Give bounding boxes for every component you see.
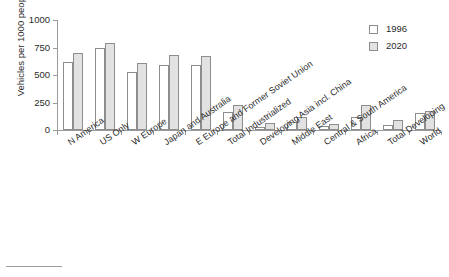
bar-2020-us-only	[105, 43, 115, 130]
legend-swatch-icon	[369, 42, 378, 51]
x-tick-mark	[57, 131, 58, 135]
legend-label: 2020	[386, 41, 407, 51]
bars-layer	[0, 0, 449, 131]
legend-item-1996[interactable]: 1996	[369, 22, 407, 36]
bar-2020-japan-and-australia	[169, 55, 179, 130]
legend-swatch-icon	[369, 25, 378, 34]
bar-2020-n-america	[73, 53, 83, 130]
legend-label: 1996	[386, 24, 407, 34]
bottom-divider	[6, 266, 62, 267]
bar-1996-w-europe	[127, 72, 137, 130]
bar-chart: Vehicles per 1000 people 02505007501000 …	[0, 0, 449, 277]
legend: 19962020	[369, 22, 407, 56]
legend-item-2020[interactable]: 2020	[369, 39, 407, 53]
bar-2020-w-europe	[137, 63, 147, 130]
bar-1996-total-developing	[383, 125, 393, 131]
bar-1996-n-america	[63, 62, 73, 130]
